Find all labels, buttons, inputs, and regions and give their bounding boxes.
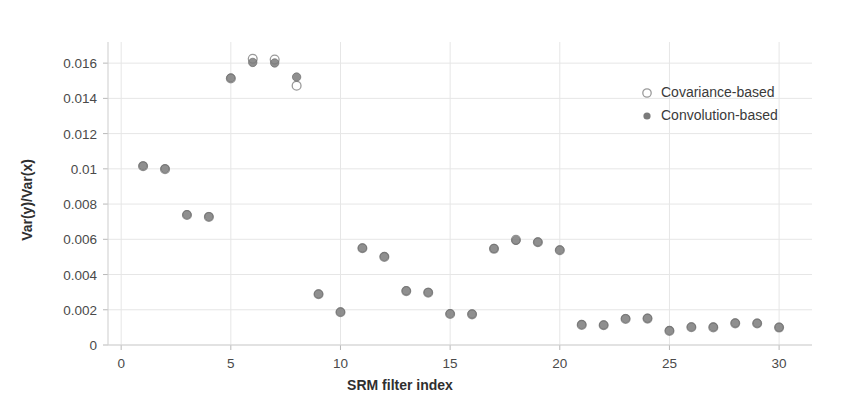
x-tick-label: 5 — [227, 356, 235, 371]
y-axis-title: Var(y)/Var(x) — [19, 159, 35, 241]
y-tick-label: 0 — [89, 338, 97, 353]
data-point-convolution — [687, 323, 695, 331]
legend-marker-filled-circle-icon — [643, 112, 650, 119]
data-point-convolution — [249, 58, 257, 66]
data-point-convolution — [227, 74, 235, 82]
data-point-convolution — [380, 252, 388, 260]
y-tick-label: 0.004 — [63, 268, 97, 283]
data-point-convolution — [753, 319, 761, 327]
data-point-convolution — [161, 164, 169, 172]
y-tick-label: 0.012 — [63, 127, 97, 142]
legend-label: Covariance-based — [661, 84, 775, 100]
x-axis-title: SRM filter index — [347, 377, 453, 393]
data-point-convolution — [446, 309, 454, 317]
data-point-convolution — [490, 244, 498, 252]
data-point-convolution — [205, 212, 213, 220]
x-axis-tick-labels: 051015202530 — [117, 356, 786, 371]
y-tick-label: 0.006 — [63, 232, 97, 247]
data-point-convolution — [358, 244, 366, 252]
x-tick-label: 30 — [772, 356, 787, 371]
data-point-convolution — [139, 162, 147, 170]
y-tick-label: 0.002 — [63, 303, 97, 318]
data-point-convolution — [424, 288, 432, 296]
data-point-convolution — [468, 310, 476, 318]
legend-label: Convolution-based — [661, 107, 778, 123]
y-tick-label: 0.008 — [63, 197, 97, 212]
data-point-convolution — [665, 326, 673, 334]
data-point-convolution — [183, 210, 191, 218]
y-tick-label: 0.014 — [63, 91, 97, 106]
y-tick-label: 0.01 — [71, 162, 97, 177]
y-axis-tick-labels: 00.0020.0040.0060.0080.010.0120.0140.016 — [63, 56, 97, 353]
x-tick-label: 0 — [117, 356, 125, 371]
data-point-convolution — [621, 314, 629, 322]
data-point-convolution — [292, 73, 300, 81]
data-point-covariance — [292, 81, 301, 90]
data-point-convolution — [578, 320, 586, 328]
data-point-convolution — [270, 59, 278, 67]
data-point-convolution — [599, 321, 607, 329]
plot-canvas: 00.0020.0040.0060.0080.010.0120.0140.016… — [0, 0, 863, 415]
data-point-convolution — [709, 323, 717, 331]
data-point-convolution — [402, 287, 410, 295]
x-tick-label: 25 — [662, 356, 677, 371]
x-tick-label: 20 — [552, 356, 567, 371]
chart-legend: Covariance-basedConvolution-based — [643, 84, 778, 123]
y-tick-label: 0.016 — [63, 56, 97, 71]
data-point-convolution — [336, 308, 344, 316]
data-point-convolution — [534, 238, 542, 246]
data-point-convolution — [556, 246, 564, 254]
x-tick-label: 10 — [333, 356, 348, 371]
data-point-convolution — [512, 236, 520, 244]
legend-marker-open-circle-icon — [643, 89, 651, 97]
data-point-convolution — [731, 319, 739, 327]
data-point-convolution — [775, 323, 783, 331]
x-tick-label: 15 — [443, 356, 458, 371]
scatter-plot-figure: 00.0020.0040.0060.0080.010.0120.0140.016… — [0, 0, 863, 415]
data-point-convolution — [643, 314, 651, 322]
data-point-convolution — [314, 290, 322, 298]
